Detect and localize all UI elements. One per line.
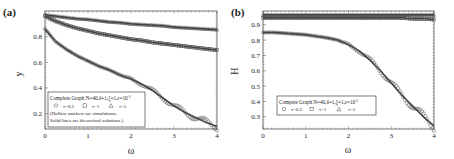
x-axis-label-a: ω	[128, 145, 135, 156]
svg-text:0.2: 0.2	[33, 110, 42, 118]
legend-entry-a-2: τ=1	[92, 104, 100, 109]
legend-title-b: Compete Graph N=40,δ=1,ξ=1,ε=10-3	[279, 99, 358, 106]
svg-text:0.9: 0.9	[251, 21, 260, 29]
svg-text:0.6: 0.6	[251, 67, 260, 75]
legend-note-a-2: Solid lines are theoretical solutions.)	[50, 118, 124, 123]
svg-text:0.4: 0.4	[251, 98, 260, 106]
x-tick-labels-a: 01234	[43, 132, 219, 140]
chart-panel-b: (b) 0.30.40.50.60.70.80.9 01234 H ω Comp…	[227, 0, 454, 159]
svg-text:0.8: 0.8	[251, 37, 260, 45]
svg-text:0.8: 0.8	[33, 33, 42, 41]
svg-text:0.4: 0.4	[33, 84, 42, 92]
svg-text:1: 1	[86, 132, 90, 140]
svg-text:3: 3	[390, 132, 394, 140]
svg-text:4: 4	[432, 132, 436, 140]
legend-entry-a-3: τ=5	[119, 104, 127, 109]
svg-text:2: 2	[347, 132, 351, 140]
svg-text:0.5: 0.5	[251, 83, 260, 91]
y-tick-labels-b: 0.30.40.50.60.70.80.9	[251, 21, 266, 121]
y-axis-label-b: H	[229, 67, 240, 74]
svg-text:3: 3	[172, 132, 176, 140]
chart-a-svg: (a) 0.20.40.60.8 01234 y ω Complete Grap…	[0, 0, 227, 159]
svg-text:4: 4	[215, 132, 219, 140]
y-axis-label-a: y	[13, 72, 24, 77]
svg-text:1: 1	[304, 132, 308, 140]
panel-label-b: (b)	[231, 6, 245, 19]
svg-text:0.6: 0.6	[33, 59, 42, 67]
chart-b-svg: (b) 0.30.40.50.60.70.80.9 01234 H ω Comp…	[227, 0, 454, 159]
legend-a: Complete Graph N=40,δ=1,ξ=1,ε=10-3 τ=0.2…	[48, 92, 145, 127]
x-tick-labels-b: 01234	[261, 132, 436, 140]
panel-label-a: (a)	[3, 6, 16, 19]
x-axis-label-b: ω	[345, 144, 352, 155]
legend-entry-a-1: τ=0.2	[63, 104, 75, 109]
legend-note-a-1: (Hollow markers are simulations.	[50, 111, 117, 116]
legend-entry-b-1: τ=0.2	[291, 107, 303, 112]
y-tick-labels-a: 0.20.40.60.8	[33, 33, 48, 118]
svg-text:0: 0	[43, 132, 47, 140]
svg-text:0.3: 0.3	[251, 113, 260, 121]
chart-panel-a: (a) 0.20.40.60.8 01234 y ω Complete Grap…	[0, 0, 227, 159]
legend-b: Compete Graph N=40,δ=1,ξ=1,ε=10-3 τ=0.2 …	[277, 96, 376, 115]
svg-text:2: 2	[129, 132, 133, 140]
svg-text:0.7: 0.7	[251, 52, 260, 60]
legend-title-a: Complete Graph N=40,δ=1,ξ=1,ε=10-3	[50, 95, 131, 102]
svg-text:0: 0	[261, 132, 265, 140]
legend-entry-b-2: τ=1	[319, 107, 327, 112]
legend-entry-b-3: τ=5	[348, 107, 356, 112]
